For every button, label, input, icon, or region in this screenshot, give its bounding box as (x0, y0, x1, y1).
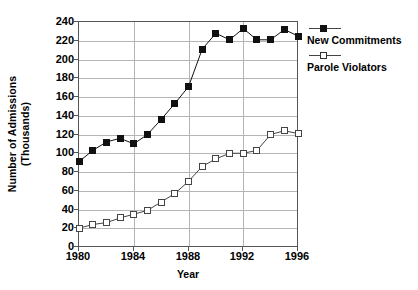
x-axis-title: Year (78, 268, 298, 280)
data-point (76, 225, 83, 232)
series-lines (79, 22, 299, 248)
y-tick-label: 140 (40, 110, 74, 121)
x-tick-label: 1988 (168, 251, 208, 262)
data-point (103, 139, 110, 146)
y-axis-title-line1: Number of Admissions (6, 76, 19, 193)
data-point (130, 140, 137, 147)
x-tick-label: 1992 (222, 251, 262, 262)
y-axis-title-line2: (Thousands) (19, 76, 32, 193)
data-point (226, 36, 233, 43)
x-tick-mark (78, 247, 79, 251)
data-point (281, 26, 288, 33)
x-tick-label: 1984 (113, 251, 153, 262)
data-point (117, 214, 124, 221)
data-point (185, 83, 192, 90)
legend-entry-parole-violators: Parole Violators (307, 49, 417, 74)
data-point (253, 147, 260, 154)
data-point (226, 150, 233, 157)
data-point (130, 211, 137, 218)
y-tick-label: 100 (40, 147, 74, 158)
data-point (240, 150, 247, 157)
data-point (295, 130, 302, 137)
y-tick-label: 80 (40, 166, 74, 177)
x-tick-label: 1980 (58, 251, 98, 262)
data-point (144, 131, 151, 138)
chart-legend: New Commitments Parole Violators (307, 22, 417, 76)
y-tick-label: 220 (40, 35, 74, 46)
x-tick-mark (297, 247, 298, 251)
data-point (212, 155, 219, 162)
data-point (240, 25, 247, 32)
data-point (171, 190, 178, 197)
data-point (267, 36, 274, 43)
data-point (117, 135, 124, 142)
data-point (76, 158, 83, 165)
data-point (185, 178, 192, 185)
data-point (89, 147, 96, 154)
plot-area (78, 21, 298, 247)
y-tick-label: 200 (40, 54, 74, 65)
y-tick-label: 60 (40, 185, 74, 196)
data-point (281, 127, 288, 134)
data-point (267, 131, 274, 138)
line-chart: Number of Admissions (Thousands) 0204060… (0, 0, 418, 290)
data-point (171, 100, 178, 107)
data-point (103, 219, 110, 226)
x-tick-mark (133, 247, 134, 251)
y-tick-label: 160 (40, 91, 74, 102)
data-point (212, 30, 219, 37)
data-point (158, 116, 165, 123)
x-tick-mark (242, 247, 243, 251)
x-tick-label: 1996 (277, 251, 317, 262)
data-point (199, 163, 206, 170)
legend-marker-filled-square-icon (307, 22, 351, 34)
data-point (158, 199, 165, 206)
legend-marker-open-square-icon (307, 49, 351, 61)
legend-label-parole-violators: Parole Violators (307, 61, 417, 74)
data-point (144, 207, 151, 214)
x-tick-mark (188, 247, 189, 251)
y-tick-label: 240 (40, 16, 74, 27)
data-point (295, 33, 302, 40)
legend-label-new-commitments: New Commitments (307, 34, 417, 47)
data-point (199, 46, 206, 53)
y-tick-label: 120 (40, 129, 74, 140)
data-point (89, 221, 96, 228)
data-point (253, 36, 260, 43)
legend-entry-new-commitments: New Commitments (307, 22, 417, 47)
y-tick-label: 40 (40, 204, 74, 215)
y-axis-title: Number of Admissions (Thousands) (2, 21, 36, 247)
y-tick-label: 20 (40, 222, 74, 233)
y-tick-label: 180 (40, 72, 74, 83)
series-line-new-commitments (79, 29, 298, 162)
